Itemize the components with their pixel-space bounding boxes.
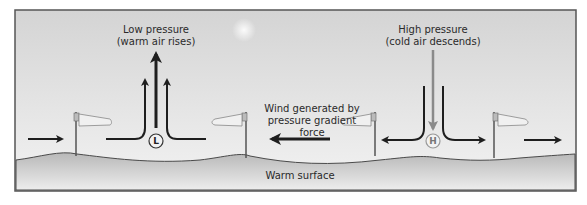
high-pressure-subtitle: (cold air descends) xyxy=(375,36,491,48)
high-pressure-title: High pressure xyxy=(375,24,491,36)
wind-label-line2: pressure gradient xyxy=(252,115,372,127)
wind-label-line3: force xyxy=(252,127,372,139)
low-pressure-subtitle: (warm air rises) xyxy=(106,36,206,48)
wind-generated-label: Wind generated by pressure gradient forc… xyxy=(252,103,372,139)
low-pressure-symbol-letter: L xyxy=(150,135,162,147)
low-pressure-label: Low pressure (warm air rises) xyxy=(106,24,206,48)
low-pressure-title: Low pressure xyxy=(106,24,206,36)
pressure-wind-diagram: Low pressure (warm air rises) L High pre… xyxy=(0,0,587,205)
warm-surface-label: Warm surface xyxy=(250,170,350,182)
high-pressure-label: High pressure (cold air descends) xyxy=(375,24,491,48)
sun-glow xyxy=(232,18,256,42)
high-pressure-symbol-letter: H xyxy=(427,135,439,147)
wind-label-line1: Wind generated by xyxy=(252,103,372,115)
